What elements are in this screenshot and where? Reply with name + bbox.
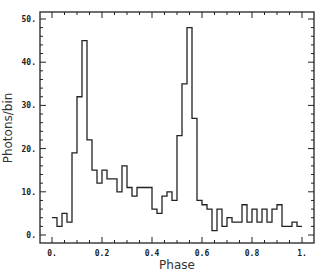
histogram-step-line bbox=[52, 28, 302, 231]
histogram-chart: 0.0.20.40.60.81.0.10.20.30.40.50. Phase … bbox=[0, 0, 324, 276]
axis-ticks bbox=[40, 12, 314, 243]
y-tick-label: 0. bbox=[26, 231, 36, 240]
x-tick-label: 0. bbox=[47, 249, 57, 258]
y-tick-label: 50. bbox=[22, 15, 36, 24]
y-tick-label: 40. bbox=[22, 58, 36, 67]
x-tick-label: 1. bbox=[297, 249, 307, 258]
x-tick-label: 0.2 bbox=[95, 249, 110, 258]
plot-frame bbox=[40, 12, 314, 243]
x-tick-label: 0.6 bbox=[195, 249, 210, 258]
y-tick-label: 20. bbox=[22, 145, 36, 154]
y-axis-title: Photons/bin bbox=[1, 93, 15, 164]
x-axis-title: Phase bbox=[159, 258, 195, 272]
tick-labels: 0.0.20.40.60.81.0.10.20.30.40.50. bbox=[22, 15, 307, 258]
y-tick-label: 10. bbox=[22, 188, 36, 197]
x-tick-label: 0.4 bbox=[145, 249, 160, 258]
x-tick-label: 0.8 bbox=[245, 249, 260, 258]
y-tick-label: 30. bbox=[22, 101, 36, 110]
